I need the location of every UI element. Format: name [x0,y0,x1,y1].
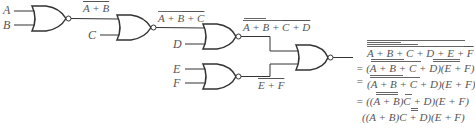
g1-output-label: A + B [83,3,109,14]
eq2-overbar-2 [371,59,404,60]
eq1-overbar-ef [436,46,464,47]
g3-inner-overbar-2 [244,18,266,19]
nor-gate-4 [296,45,333,70]
input-label-a: A [3,4,10,16]
eq2-overbar-ef-2 [433,59,460,60]
equation-line-1: A + B + C + D + E + F [367,48,474,59]
nor-gate-5 [203,64,241,89]
nor-gate-2 [117,15,156,40]
input-label-b: B [3,19,10,31]
input-label-c: C [88,29,96,41]
eq3-overbar-2 [370,75,403,76]
input-label-f: F [173,77,180,89]
g2-output-label: A + B + C [158,13,204,24]
g2-inner-overbar [158,11,182,12]
g5-output-label: E + F [258,80,284,91]
eq1-overbar-3 [367,44,418,45]
eq5-overbar-c-2 [411,108,418,109]
eq2-overbar-1 [371,61,421,62]
g3-inner-overbar-1 [244,20,282,21]
eq1-overbar-4 [367,42,401,43]
eq5-overbar-c-1 [411,110,418,111]
eq2-overbar-ef-1 [433,61,460,62]
eq3-overbar-1 [370,77,420,78]
eq1-overbar-2 [367,46,435,47]
equation-line-3: (A + B + C + D)(E + F) [367,79,475,90]
eq4-overbar-c [405,94,412,95]
eq1-overbar-outer [367,40,465,41]
eq4-overbar-ab-2 [376,92,398,93]
equation-line-5: ((A + B)C + D)(E + F) [362,112,465,123]
equation-line-3-eq: = [356,76,363,87]
input-label-d: D [173,38,182,50]
equation-line-2: = (A + B + C + D)(E + F) [356,63,474,74]
g3-output-label: A + B + C + D [243,22,310,33]
eq4-overbar-ab-1 [376,94,398,95]
input-label-e: E [173,63,180,75]
nor-gate-1 [32,6,71,31]
nor-gate-3 [203,24,241,49]
equation-line-4: = ((A + B)C + D)(E + F) [356,96,469,107]
